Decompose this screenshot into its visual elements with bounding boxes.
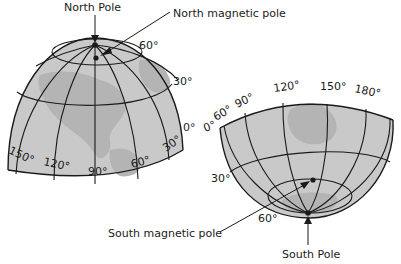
south-lat-label-30: 30° [211,172,231,185]
north-lat-label-30: 30° [173,75,193,88]
north-magnetic-pole-dot [93,55,98,60]
south-lon-label-90: 90° [233,91,256,111]
north-lon-label-90: 90° [88,165,108,178]
south-magnetic-pole-label: South magnetic pole [108,227,222,240]
south-magnetic-pole-dot [310,177,315,182]
north-magnetic-pole-label: North magnetic pole [173,7,286,20]
north-pole-dot [92,42,98,48]
south-lon-label-120: 120° [273,78,301,95]
south-lon-label-180: 180° [353,82,382,100]
north-pole-label: North Pole [64,1,121,14]
south-lat-label-60: 60° [258,212,278,225]
north-lat-label-0: 0° [183,121,196,134]
north-lat-label-60: 60° [139,39,159,52]
south-lon-label-60: 60° [211,103,234,124]
south-pole-dot [305,210,311,216]
south-lon-label-150: 150° [320,80,347,93]
south-pole-label: South Pole [282,248,340,261]
magnetic-poles-diagram: North Pole North magnetic pole 60° 30° 0… [0,0,401,264]
north-magnetic-pole-leader [104,12,170,54]
